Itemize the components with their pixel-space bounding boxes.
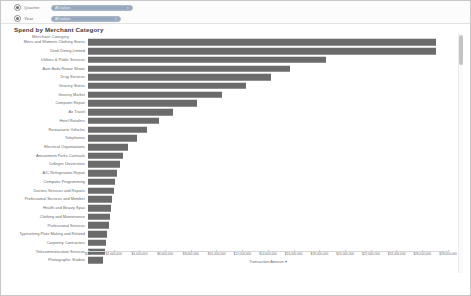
bar[interactable] — [88, 170, 117, 177]
bar[interactable] — [88, 91, 222, 98]
bar[interactable] — [88, 187, 114, 194]
bar-row[interactable]: Clothing and Maintenance — [14, 212, 448, 221]
filter-row-quarter[interactable]: Quarter All values ▾ — [14, 3, 470, 12]
bar[interactable] — [88, 213, 110, 220]
bar-row[interactable]: Auto Body Repair Shops — [14, 64, 448, 73]
bar-row[interactable]: Computer Repair — [14, 99, 448, 108]
bar-track — [88, 73, 448, 82]
bar-row[interactable]: Air Travel — [14, 108, 448, 117]
bar-row[interactable]: Mens and Womens Clothing Stores — [14, 38, 448, 47]
bar[interactable] — [88, 205, 111, 212]
x-axis-title[interactable]: Transaction Amount ▾ — [88, 259, 448, 264]
bar-track — [88, 204, 448, 213]
radio-icon-quarter[interactable] — [14, 4, 21, 11]
bar[interactable] — [88, 65, 290, 72]
chart-title: Spend by Merchant Category — [14, 26, 104, 33]
bar[interactable] — [88, 240, 106, 247]
category-label: Professional Services — [14, 224, 88, 228]
bar-track — [88, 99, 448, 108]
bar-track — [88, 125, 448, 134]
vertical-scrollbar[interactable] — [458, 33, 463, 273]
bar-row[interactable]: Health and Beauty Spas — [14, 204, 448, 213]
bar-row[interactable]: Drug Services — [14, 73, 448, 82]
x-axis-tick: $28,000,000 — [439, 252, 457, 256]
bar-track — [88, 134, 448, 143]
category-label: Mens and Womens Clothing Stores — [14, 40, 88, 44]
x-axis-tick: $24,000,000 — [388, 252, 406, 256]
bar-rows: Mens and Womens Clothing StoresDrink Din… — [14, 38, 448, 265]
category-label: Grocery Market — [14, 93, 88, 97]
filter-label-year: Year — [24, 16, 51, 21]
category-label: Drug Services — [14, 75, 88, 79]
bar[interactable] — [88, 118, 159, 125]
bar-track — [88, 160, 448, 169]
category-label: Grocery Stores — [14, 84, 88, 88]
bar-track — [88, 55, 448, 64]
bar-row[interactable]: Professional Services — [14, 221, 448, 230]
category-label: Utilities & Public Services — [14, 58, 88, 62]
bar[interactable] — [88, 152, 123, 159]
bar-row[interactable]: Colleges Universities — [14, 160, 448, 169]
bar-row[interactable]: Grocery Market — [14, 90, 448, 99]
bar-row[interactable]: Carpentry Contractors — [14, 239, 448, 248]
x-axis-tick: $2,000,000 — [106, 252, 122, 256]
bar-row[interactable]: Electrical Organizations — [14, 143, 448, 152]
bar-row[interactable]: Drink Dining Limited — [14, 47, 448, 56]
bar[interactable] — [88, 83, 246, 90]
bar[interactable] — [88, 39, 436, 46]
bar-row[interactable]: Computer Programming — [14, 178, 448, 187]
chevron-down-icon-quarter[interactable]: ▾ — [127, 6, 129, 10]
bar[interactable] — [88, 57, 326, 64]
scrollbar-thumb[interactable] — [459, 35, 463, 65]
bar[interactable] — [88, 222, 109, 229]
filter-dropdown-year[interactable]: All values ▾ — [51, 16, 121, 22]
bar-row[interactable]: Hotel Retailers — [14, 116, 448, 125]
filter-row-year[interactable]: Year All values ▾ — [14, 14, 470, 23]
category-label: A/C Refrigeration Repair — [14, 171, 88, 175]
bar-row[interactable]: Amusement Parks Carnivals — [14, 151, 448, 160]
radio-icon-year[interactable] — [14, 15, 21, 22]
category-label: Photographic Studios — [14, 258, 88, 262]
x-axis-tick: $6,000,000 — [157, 252, 173, 256]
x-axis-tick: $16,000,000 — [285, 252, 303, 256]
category-label: Carpentry Contractors — [14, 241, 88, 245]
bar-track — [88, 116, 448, 125]
bar-row[interactable]: Utilities & Public Services — [14, 55, 448, 64]
sort-descending-icon[interactable]: ▾ — [285, 259, 287, 264]
bar-row[interactable]: Restaurants Vehicles — [14, 125, 448, 134]
chevron-down-icon-year[interactable]: ▾ — [115, 17, 117, 21]
bar[interactable] — [88, 144, 128, 151]
filter-dropdown-quarter[interactable]: All values ▾ — [51, 5, 133, 11]
x-axis-tick: $10,000,000 — [208, 252, 226, 256]
bar-row[interactable]: Doctors Services and Repairs — [14, 186, 448, 195]
category-label: Restaurants Vehicles — [14, 128, 88, 132]
x-axis: $0.0$2,000,000$4,000,000$6,000,000$8,000… — [88, 251, 448, 265]
bar[interactable] — [88, 135, 137, 142]
x-axis-tick: $8,000,000 — [183, 252, 199, 256]
bar-row[interactable]: Grocery Stores — [14, 82, 448, 91]
bar[interactable] — [88, 74, 271, 81]
bar[interactable] — [88, 179, 115, 186]
bar[interactable] — [88, 196, 112, 203]
bar[interactable] — [88, 48, 436, 55]
dashboard-viewport: Quarter All values ▾ Year All values ▾ S… — [0, 0, 471, 296]
bar[interactable] — [88, 100, 197, 107]
bar-track — [88, 64, 448, 73]
bar-track — [88, 108, 448, 117]
bar[interactable] — [88, 231, 107, 238]
bar-row[interactable]: Typesetting Plate Making and Related — [14, 230, 448, 239]
category-label: Air Travel — [14, 110, 88, 114]
bar-track — [88, 38, 448, 47]
bar-row[interactable]: Professional Services and Member — [14, 195, 448, 204]
bar-row[interactable]: A/C Refrigeration Repair — [14, 169, 448, 178]
bar-track — [88, 221, 448, 230]
bar[interactable] — [88, 109, 173, 116]
bar-row[interactable]: Telephones — [14, 134, 448, 143]
chart-plot-area: Mens and Womens Clothing StoresDrink Din… — [14, 38, 448, 279]
x-axis-tick: $14,000,000 — [259, 252, 277, 256]
bar[interactable] — [88, 161, 120, 168]
category-label: Hotel Retailers — [14, 119, 88, 123]
category-label: Computer Programming — [14, 180, 88, 184]
bar[interactable] — [88, 126, 147, 133]
bar-track — [88, 186, 448, 195]
